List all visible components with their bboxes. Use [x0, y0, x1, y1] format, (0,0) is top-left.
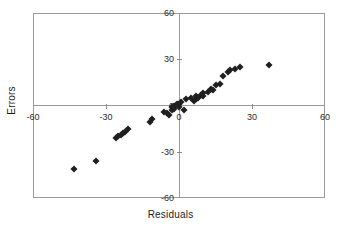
data-point [93, 157, 100, 164]
y-axis-title: Errors [6, 73, 17, 129]
scatter-chart: -60-3003060-60-3003060 Residuals Errors [0, 0, 341, 233]
x-axis-title: Residuals [0, 209, 341, 220]
data-point [71, 165, 78, 172]
data-point [217, 80, 224, 87]
data-points [0, 0, 341, 233]
data-point [180, 107, 187, 114]
data-point [265, 62, 272, 69]
